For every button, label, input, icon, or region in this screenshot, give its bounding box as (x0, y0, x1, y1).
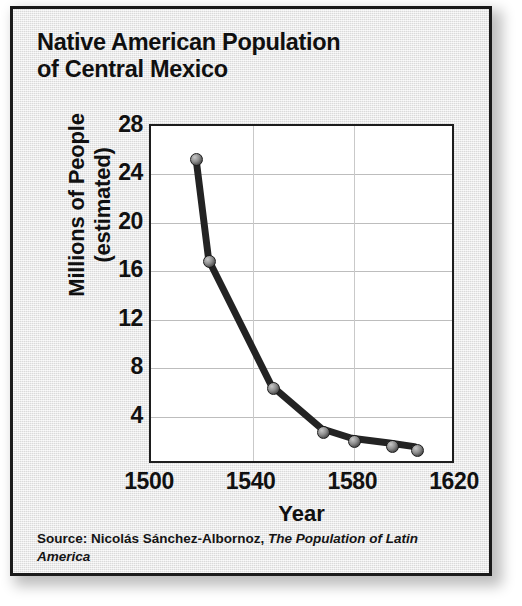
plot-area (149, 124, 454, 463)
x-tick-label-1620: 1620 (429, 470, 479, 493)
y-tick-label-24: 24 (91, 161, 143, 184)
title-line-1: Native American Population (37, 29, 457, 56)
y-tick-label-4: 4 (91, 403, 143, 426)
series-line (151, 126, 452, 461)
data-point-1523 (203, 255, 216, 268)
source-note: Source: Nicolás Sánchez-Albornoz, The Po… (37, 530, 467, 566)
chart-card: Native American Population of Central Me… (10, 6, 492, 576)
x-axis-title: Year (149, 501, 454, 527)
y-tick-label-12: 12 (91, 306, 143, 329)
x-tick-label-1500: 1500 (124, 470, 174, 493)
y-axis-title-line-1: Millions of People (64, 80, 90, 330)
x-tick-label-1580: 1580 (328, 470, 378, 493)
population-line (196, 160, 414, 447)
page-title: Native American Population of Central Me… (37, 29, 457, 84)
x-tick-label-1540: 1540 (226, 470, 276, 493)
y-tick-label-8: 8 (91, 355, 143, 378)
y-tick-label-16: 16 (91, 258, 143, 281)
source-prefix: Source: Nicolás Sánchez-Albornoz, (37, 531, 268, 546)
y-tick-label-28: 28 (91, 113, 143, 136)
x-axis-tick-labels: 1500154015801620 (149, 470, 454, 500)
y-axis-tick-labels: 481216202428 (89, 124, 143, 463)
data-point-1548 (267, 382, 280, 395)
y-tick-label-20: 20 (91, 209, 143, 232)
